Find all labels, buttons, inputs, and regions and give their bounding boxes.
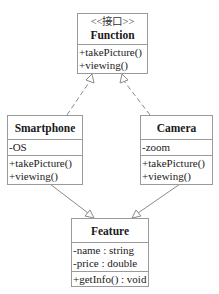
method: +viewing() — [9, 170, 81, 183]
class-header: <<接口>> Function — [78, 14, 147, 45]
method: +takePicture() — [9, 157, 81, 170]
hollow-triangle-arrowhead-icon — [132, 210, 141, 218]
attribute: -price : double — [73, 257, 147, 270]
class-methods: +getInfo() : void — [72, 272, 148, 287]
class-attributes: -name : string -price : double — [72, 243, 148, 272]
generalization-smartphone-feature — [50, 184, 88, 213]
class-name: Feature — [73, 224, 147, 238]
method: +takePicture() — [142, 157, 211, 170]
hollow-triangle-arrowhead-icon — [120, 74, 128, 83]
class-name: Smartphone — [9, 121, 81, 135]
attribute: -zoom — [142, 141, 211, 154]
class-name: Function — [79, 28, 146, 42]
class-feature: Feature -name : string -price : double +… — [71, 218, 149, 287]
realization-camera-function — [124, 81, 150, 115]
class-methods: +takePicture() +viewing() — [8, 156, 82, 184]
method: +takePicture() — [79, 46, 146, 59]
realization-smartphone-function — [67, 81, 90, 115]
class-name: Camera — [142, 121, 211, 135]
class-methods: +takePicture() +viewing() — [141, 156, 212, 184]
class-header: Feature — [72, 219, 148, 243]
class-methods: +takePicture() +viewing() — [78, 45, 147, 73]
class-stereotype: <<接口>> — [79, 16, 146, 28]
class-function: <<接口>> Function +takePicture() +viewing(… — [77, 13, 148, 74]
generalization-camera-feature — [138, 184, 180, 213]
class-attributes: -OS — [8, 140, 82, 156]
class-header: Camera — [141, 116, 212, 140]
attribute: -name : string — [73, 244, 147, 257]
class-attributes: -zoom — [141, 140, 212, 156]
method: +getInfo() : void — [73, 273, 147, 286]
class-camera: Camera -zoom +takePicture() +viewing() — [140, 115, 213, 185]
class-smartphone: Smartphone -OS +takePicture() +viewing() — [7, 115, 83, 185]
hollow-triangle-arrowhead-icon — [86, 74, 94, 83]
attribute: -OS — [9, 141, 81, 154]
method: +viewing() — [79, 59, 146, 72]
method: +viewing() — [142, 170, 211, 183]
hollow-triangle-arrowhead-icon — [85, 210, 94, 218]
class-header: Smartphone — [8, 116, 82, 140]
